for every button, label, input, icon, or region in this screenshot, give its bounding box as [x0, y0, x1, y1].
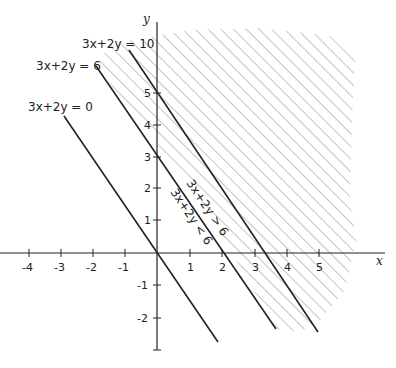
y-tick-label: 1	[144, 214, 151, 227]
inequality-diagram: -4 -3 -2 -1 1 2 3 4 5 x 5 4 3 2 1 -1 -2 …	[0, 0, 396, 368]
x-tick-label: -3	[54, 261, 65, 274]
y-tick-label: 3	[144, 151, 151, 164]
y-axis-label: y	[142, 12, 150, 26]
x-tick-label: 5	[316, 261, 323, 274]
diagram-canvas: -4 -3 -2 -1 1 2 3 4 5 x 5 4 3 2 1 -1 -2 …	[0, 0, 396, 368]
y-tick-label: -2	[137, 312, 148, 325]
x-tick-label: -1	[118, 261, 129, 274]
x-tick-label: 1	[187, 261, 194, 274]
x-tick-label: 4	[284, 261, 291, 274]
label-line-10: 3x+2y = 10	[82, 37, 154, 51]
y-tick-label: 5	[144, 87, 151, 100]
x-tick-label: 2	[219, 261, 226, 274]
y-tick-label: -1	[137, 279, 148, 292]
label-line-0: 3x+2y = 0	[28, 100, 93, 114]
x-tick-label: 3	[252, 261, 259, 274]
x-tick-label: -4	[22, 261, 33, 274]
x-tick-label: -2	[86, 261, 97, 274]
y-tick-label: 2	[144, 182, 151, 195]
x-axis-label: x	[376, 254, 383, 268]
label-line-6: 3x+2y = 6	[36, 59, 101, 73]
y-tick-label: 4	[144, 119, 151, 132]
